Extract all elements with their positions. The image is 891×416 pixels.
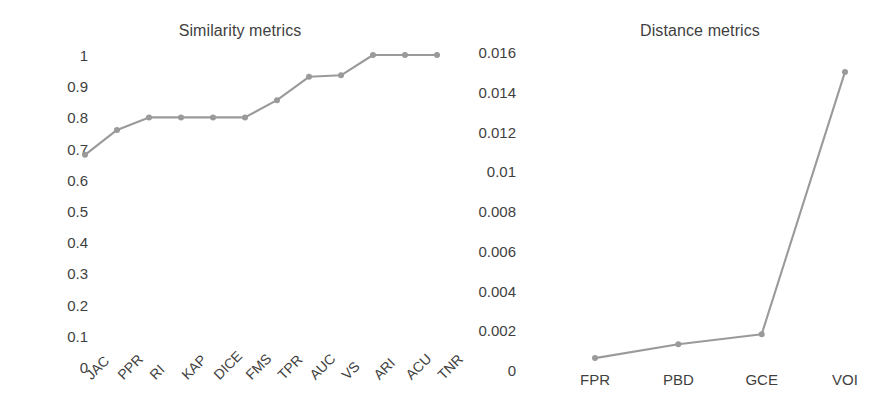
series-polyline <box>85 55 437 155</box>
chart-panel-similarity: Similarity metrics 00.10.20.30.40.50.60.… <box>0 0 460 416</box>
data-point-marker <box>242 114 248 120</box>
data-point-marker <box>274 97 280 103</box>
x-tick-label: PBD <box>663 372 694 387</box>
x-tick-label: FPR <box>580 372 610 387</box>
data-point-marker <box>146 114 152 120</box>
x-tick-label: VOI <box>832 372 858 387</box>
series-distance <box>455 0 891 416</box>
data-point-marker <box>178 114 184 120</box>
data-point-marker <box>402 52 408 58</box>
x-tick-label: GCE <box>745 372 778 387</box>
data-point-marker <box>370 52 376 58</box>
data-point-marker <box>338 72 344 78</box>
chart-panel-distance: Distance metrics 00.0020.0040.0060.0080.… <box>455 0 891 416</box>
data-point-marker <box>114 127 120 133</box>
data-point-marker <box>434 52 440 58</box>
data-point-marker <box>675 341 681 347</box>
data-point-marker <box>82 152 88 158</box>
data-point-marker <box>306 74 312 80</box>
series-polyline <box>595 72 845 358</box>
figure-canvas: Similarity metrics 00.10.20.30.40.50.60.… <box>0 0 891 416</box>
plot-area-distance <box>455 0 891 416</box>
data-point-marker <box>592 355 598 361</box>
data-point-marker <box>210 114 216 120</box>
data-point-marker <box>759 331 765 337</box>
data-point-marker <box>842 69 848 75</box>
